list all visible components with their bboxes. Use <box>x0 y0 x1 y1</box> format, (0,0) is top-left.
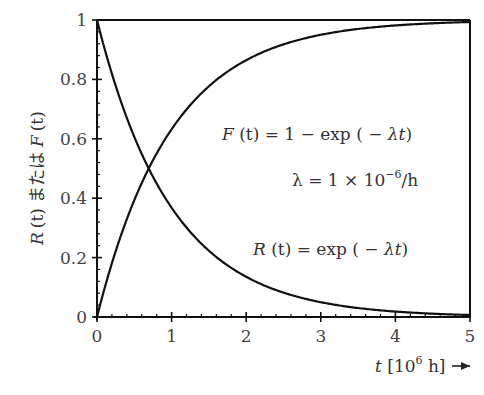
x-tick-label: 2 <box>241 326 252 346</box>
y-axis-label: R(t)またはF(t) <box>27 111 47 246</box>
x-tick-label: 3 <box>315 326 326 346</box>
f-annotation: F (t) = 1 − exp ( − λt) <box>221 124 412 144</box>
y-tick-label: 0.8 <box>60 69 87 89</box>
lambda-annotation: λ = 1 × 10−6/h <box>292 168 418 190</box>
y-tick-labels: 00.20.40.60.81 <box>60 10 87 327</box>
x-axis-label: t [106 h] <box>375 354 470 376</box>
y-tick-label: 0.4 <box>60 188 87 208</box>
y-tick-label: 0.2 <box>60 248 87 268</box>
x-tick-label: 5 <box>465 326 476 346</box>
arrow-right-icon <box>452 362 470 370</box>
r-curve <box>97 20 470 315</box>
x-tick-label: 0 <box>92 326 103 346</box>
reliability-chart: 00.20.40.60.81 012345 F (t) = 1 − exp ( … <box>0 0 484 395</box>
r-annotation: R (t) = exp ( − λt) <box>252 239 408 259</box>
x-tick-label: 1 <box>166 326 177 346</box>
x-tick-labels: 012345 <box>92 326 476 346</box>
x-tick-label: 4 <box>390 326 401 346</box>
y-tick-label: 0 <box>76 307 87 327</box>
y-tick-label: 0.6 <box>60 129 87 149</box>
y-tick-label: 1 <box>76 10 87 30</box>
svg-text:t [106 h]: t [106 h] <box>375 354 446 376</box>
